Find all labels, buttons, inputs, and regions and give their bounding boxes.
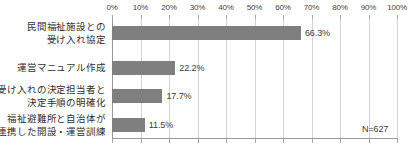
x-tick-mark — [226, 15, 227, 19]
x-tick-label: 60% — [275, 3, 290, 13]
x-tick-label: 40% — [218, 3, 233, 13]
x-tick-mark — [141, 139, 142, 143]
bar-value-label: 11.5% — [145, 120, 173, 131]
x-tick-mark — [198, 139, 199, 143]
x-tick-label: 90% — [361, 3, 376, 13]
x-tick-mark — [369, 139, 370, 143]
category-label-line: 受け入れ協定 — [27, 33, 106, 46]
x-tick-mark — [397, 139, 398, 143]
bar-value-label: 22.2% — [175, 63, 204, 74]
x-tick-mark — [169, 139, 170, 143]
category-label: 福祉避難所と自治体が連携した開設・運営訓練 — [0, 113, 106, 138]
x-tick-label: 100% — [387, 3, 407, 13]
x-tick-mark — [112, 15, 113, 19]
x-tick-mark — [397, 15, 398, 19]
x-tick-label: 70% — [304, 3, 319, 13]
bar-row: 22.2% — [112, 61, 397, 75]
x-tick-mark — [255, 139, 256, 143]
bar-value-label: 17.7% — [162, 91, 191, 102]
x-tick-mark — [312, 15, 313, 19]
gridline — [397, 19, 398, 138]
category-label: 受け入れの決定担当者と決定手順の明確化 — [0, 84, 106, 109]
bar-row: 11.5% — [112, 118, 397, 132]
x-tick-mark — [226, 139, 227, 143]
category-label-line: 運営マニュアル作成 — [17, 62, 106, 75]
category-label-line: 連携した開設・運営訓練 — [0, 125, 106, 138]
category-label-line: 決定手順の明確化 — [0, 96, 106, 109]
x-tick-mark — [283, 139, 284, 143]
x-tick-mark — [369, 15, 370, 19]
x-tick-label: 0% — [106, 3, 117, 13]
bar-row: 66.3% — [112, 26, 397, 40]
x-tick-mark — [283, 15, 284, 19]
x-tick-label: 10% — [133, 3, 148, 13]
x-tick-label: 20% — [161, 3, 176, 13]
bar — [112, 61, 175, 75]
x-tick-mark — [169, 15, 170, 19]
x-tick-mark — [112, 139, 113, 143]
category-label-line: 福祉避難所と自治体が — [0, 113, 106, 126]
bar-row: 17.7% — [112, 89, 397, 103]
x-tick-mark — [141, 15, 142, 19]
x-tick-label: 30% — [190, 3, 205, 13]
category-label: 民間福祉施設との受け入れ協定 — [27, 21, 106, 46]
bar-value-label: 66.3% — [301, 28, 330, 39]
category-label-line: 民間福祉施設との — [27, 21, 106, 34]
x-tick-label: 50% — [247, 3, 262, 13]
x-tick-mark — [340, 15, 341, 19]
x-tick-mark — [340, 139, 341, 143]
category-label: 運営マニュアル作成 — [17, 62, 106, 75]
bar-chart: 0%10%20%30%40%50%60%70%80%90%100% 66.3%2… — [0, 0, 414, 150]
x-tick-mark — [255, 15, 256, 19]
bar — [112, 26, 301, 40]
x-tick-mark — [312, 139, 313, 143]
sample-size-annotation: N=627 — [362, 124, 388, 135]
category-label-line: 受け入れの決定担当者と — [0, 84, 106, 97]
x-tick-mark — [198, 15, 199, 19]
bar — [112, 89, 162, 103]
x-tick-label: 80% — [332, 3, 347, 13]
bar — [112, 118, 145, 132]
